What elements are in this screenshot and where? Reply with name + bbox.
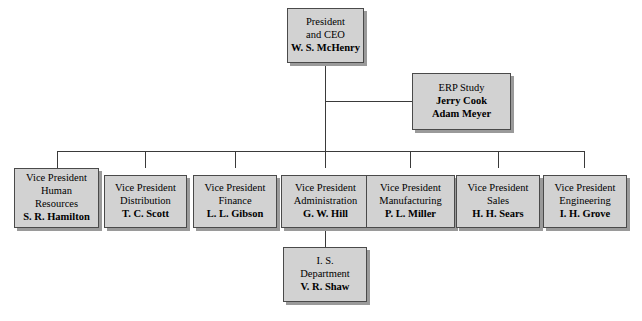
node-vp-sales-person: H. H. Sears (472, 208, 523, 221)
node-president-person: W. S. McHenry (291, 42, 360, 55)
node-president-title-line1: President (306, 16, 345, 29)
node-is-department-title-line1: I. S. (316, 255, 333, 268)
node-vp-manufacturing-title-line1: Vice President (380, 182, 441, 195)
node-vp-engineering[interactable]: Vice President Engineering I. H. Grove (543, 175, 627, 228)
node-erp-study-person-2: Adam Meyer (432, 108, 491, 121)
connector-vp-drop-4 (325, 151, 326, 168)
node-vp-human-resources-title-line3: Resources (35, 198, 78, 211)
node-erp-study-title: ERP Study (439, 82, 485, 95)
node-vp-manufacturing-person: P. L. Miller (385, 208, 436, 221)
node-erp-study-person-1: Jerry Cook (436, 95, 487, 108)
node-is-department[interactable]: I. S. Department V. R. Shaw (283, 247, 367, 302)
connector-vp-drop-6 (498, 151, 499, 168)
node-vp-distribution-title-line2: Distribution (120, 195, 171, 208)
node-vp-engineering-title-line1: Vice President (555, 182, 616, 195)
connector-president-trunk (325, 63, 326, 151)
connector-is-department (325, 228, 326, 247)
node-vp-engineering-title-line2: Engineering (559, 195, 610, 208)
connector-erp-branch (325, 101, 412, 102)
node-president[interactable]: President and CEO W. S. McHenry (287, 8, 364, 63)
node-vp-administration-title-line1: Vice President (295, 182, 356, 195)
connector-vp-drop-3 (235, 151, 236, 168)
node-erp-study[interactable]: ERP Study Jerry Cook Adam Meyer (412, 73, 511, 130)
connector-vp-drop-7 (584, 151, 585, 168)
node-vp-administration[interactable]: Vice President Administration G. W. Hill (281, 175, 370, 228)
connector-vp-drop-2 (145, 151, 146, 168)
node-is-department-person: V. R. Shaw (301, 281, 350, 294)
node-vp-human-resources[interactable]: Vice President Human Resources S. R. Ham… (14, 168, 99, 228)
node-vp-human-resources-title-line2: Human (41, 185, 72, 198)
node-vp-distribution-title-line1: Vice President (115, 182, 176, 195)
node-vp-manufacturing-title-line2: Manufacturing (379, 195, 441, 208)
connector-vp-bus (57, 151, 584, 152)
connector-vp-drop-5 (410, 151, 411, 168)
node-vp-distribution[interactable]: Vice President Distribution T. C. Scott (104, 175, 187, 228)
node-vp-sales-title-line2: Sales (487, 195, 509, 208)
connector-vp-drop-1 (57, 151, 58, 168)
node-vp-human-resources-person: S. R. Hamilton (23, 211, 90, 224)
node-vp-administration-person: G. W. Hill (303, 208, 348, 221)
node-vp-distribution-person: T. C. Scott (122, 208, 169, 221)
node-vp-finance-title-line1: Vice President (205, 182, 266, 195)
node-vp-finance[interactable]: Vice President Finance L. L. Gibson (193, 175, 277, 228)
node-vp-engineering-person: I. H. Grove (560, 208, 611, 221)
node-vp-finance-person: L. L. Gibson (207, 208, 264, 221)
node-is-department-title-line2: Department (300, 268, 350, 281)
node-vp-manufacturing[interactable]: Vice President Manufacturing P. L. Mille… (366, 175, 455, 228)
node-vp-sales[interactable]: Vice President Sales H. H. Sears (456, 175, 540, 228)
node-vp-human-resources-title-line1: Vice President (26, 172, 87, 185)
node-vp-finance-title-line2: Finance (218, 195, 251, 208)
node-vp-sales-title-line1: Vice President (468, 182, 529, 195)
node-vp-administration-title-line2: Administration (294, 195, 358, 208)
org-chart: President and CEO W. S. McHenry ERP Stud… (0, 0, 642, 321)
node-president-title-line2: and CEO (306, 29, 345, 42)
